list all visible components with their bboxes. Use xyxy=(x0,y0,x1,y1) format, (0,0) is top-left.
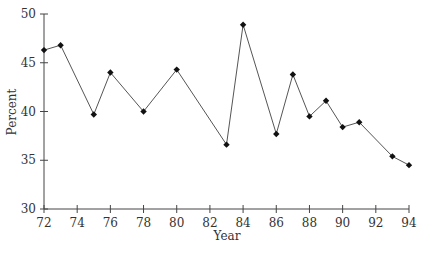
x-tick-label: 76 xyxy=(103,216,118,230)
data-point-marker xyxy=(273,131,279,137)
data-point-marker xyxy=(91,111,97,117)
y-axis-label: Percent xyxy=(5,88,19,135)
x-tick-label: 88 xyxy=(302,216,317,230)
data-point-marker xyxy=(240,22,246,28)
data-point-marker xyxy=(339,124,345,130)
y-tick-label: 30 xyxy=(21,202,36,216)
x-tick-label: 92 xyxy=(368,216,383,230)
x-tick-label: 74 xyxy=(70,216,86,230)
data-point-marker xyxy=(57,42,63,48)
axes: 7274767880828486889092943035404550 xyxy=(21,7,417,230)
x-tick-label: 80 xyxy=(169,216,184,230)
x-tick-label: 82 xyxy=(202,216,217,230)
data-series xyxy=(41,22,412,169)
y-tick-label: 45 xyxy=(21,56,36,70)
data-point-marker xyxy=(290,71,296,77)
x-axis-label: Year xyxy=(213,229,241,243)
y-tick-label: 50 xyxy=(21,7,36,21)
x-tick-label: 78 xyxy=(136,216,151,230)
x-tick-label: 94 xyxy=(401,216,417,230)
y-tick-label: 40 xyxy=(21,105,36,119)
data-point-marker xyxy=(406,162,412,168)
line-chart: 7274767880828486889092943035404550 Year … xyxy=(0,0,425,253)
x-tick-label: 84 xyxy=(235,216,251,230)
data-point-marker xyxy=(41,47,47,53)
x-tick-label: 86 xyxy=(269,216,284,230)
x-tick-label: 72 xyxy=(36,216,51,230)
y-tick-label: 35 xyxy=(21,153,36,167)
data-point-marker xyxy=(223,141,229,147)
x-tick-label: 90 xyxy=(335,216,350,230)
